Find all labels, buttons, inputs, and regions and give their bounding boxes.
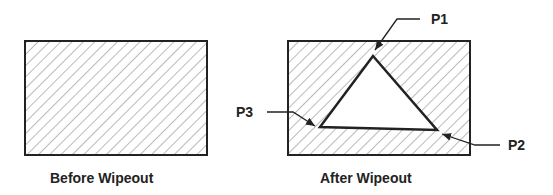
hatched-rectangle xyxy=(25,41,207,155)
after-caption: After Wipeout xyxy=(320,170,412,186)
before-wipeout-figure: Before Wipeout xyxy=(25,41,207,186)
p1-label: P1 xyxy=(431,11,448,27)
after-wipeout-figure: P1 P2 P3 After Wipeout xyxy=(236,11,525,186)
p3-label: P3 xyxy=(236,104,253,120)
before-caption: Before Wipeout xyxy=(50,170,154,186)
p2-label: P2 xyxy=(508,137,525,153)
wipeout-diagram: Before Wipeout P1 P2 P3 After Wipeout xyxy=(0,0,553,195)
